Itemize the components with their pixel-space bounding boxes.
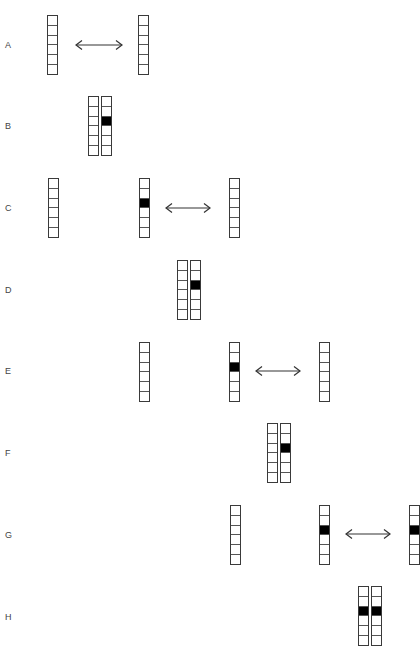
cell-strip (229, 178, 240, 238)
cell-strip (138, 15, 149, 75)
empty-cell (49, 218, 58, 228)
empty-cell (178, 261, 187, 271)
empty-cell (178, 281, 187, 291)
empty-cell (191, 271, 200, 281)
row-label: F (5, 448, 11, 458)
empty-cell (320, 535, 329, 545)
row-label: C (5, 203, 12, 213)
cell-strip (190, 260, 201, 320)
empty-cell (230, 392, 239, 401)
empty-cell (230, 179, 239, 189)
empty-cell (48, 65, 57, 74)
empty-cell (49, 228, 58, 237)
filled-cell (410, 526, 419, 536)
empty-cell (320, 343, 329, 353)
empty-cell (410, 535, 419, 545)
double-arrow-icon (255, 365, 301, 377)
cell-strip (319, 342, 330, 402)
empty-cell (140, 372, 149, 382)
cell-strip (229, 342, 240, 402)
empty-cell (230, 382, 239, 392)
empty-cell (231, 506, 240, 516)
empty-cell (359, 587, 368, 597)
row-label: D (5, 285, 12, 295)
empty-cell (48, 45, 57, 55)
row-label: A (5, 40, 11, 50)
empty-cell (281, 434, 290, 444)
empty-cell (281, 473, 290, 482)
filled-cell (281, 444, 290, 454)
empty-cell (230, 372, 239, 382)
cell-strip (139, 178, 150, 238)
empty-cell (48, 26, 57, 36)
empty-cell (140, 353, 149, 363)
filled-cell (372, 607, 381, 617)
cell-strip (280, 423, 291, 483)
empty-cell (268, 473, 277, 482)
filled-cell (230, 363, 239, 373)
empty-cell (139, 45, 148, 55)
empty-cell (191, 290, 200, 300)
cell-strip (47, 15, 58, 75)
row-label: E (5, 366, 11, 376)
empty-cell (320, 363, 329, 373)
empty-cell (178, 271, 187, 281)
empty-cell (102, 107, 111, 117)
empty-cell (230, 343, 239, 353)
empty-cell (320, 382, 329, 392)
empty-cell (89, 126, 98, 136)
empty-cell (230, 199, 239, 209)
empty-cell (268, 424, 277, 434)
cell-strip (139, 342, 150, 402)
empty-cell (268, 453, 277, 463)
cell-strip (371, 586, 382, 646)
empty-cell (410, 516, 419, 526)
empty-cell (140, 189, 149, 199)
empty-cell (140, 392, 149, 401)
empty-cell (140, 382, 149, 392)
double-arrow-icon (75, 39, 123, 51)
empty-cell (410, 506, 419, 516)
empty-cell (102, 136, 111, 146)
empty-cell (48, 36, 57, 46)
empty-cell (372, 597, 381, 607)
empty-cell (140, 218, 149, 228)
cell-strip (319, 505, 330, 565)
empty-cell (281, 463, 290, 473)
empty-cell (139, 36, 148, 46)
empty-cell (231, 516, 240, 526)
empty-cell (49, 179, 58, 189)
empty-cell (320, 545, 329, 555)
empty-cell (230, 218, 239, 228)
empty-cell (191, 300, 200, 310)
cell-strip (88, 96, 99, 156)
empty-cell (410, 545, 419, 555)
empty-cell (281, 424, 290, 434)
double-arrow-icon (165, 202, 211, 214)
empty-cell (89, 136, 98, 146)
empty-cell (230, 208, 239, 218)
empty-cell (89, 97, 98, 107)
empty-cell (191, 310, 200, 319)
cell-strip (101, 96, 112, 156)
row-label: G (5, 530, 12, 540)
filled-cell (102, 117, 111, 127)
empty-cell (320, 372, 329, 382)
filled-cell (140, 199, 149, 209)
empty-cell (89, 146, 98, 155)
empty-cell (140, 343, 149, 353)
empty-cell (230, 353, 239, 363)
empty-cell (178, 300, 187, 310)
empty-cell (102, 146, 111, 155)
empty-cell (230, 189, 239, 199)
empty-cell (410, 555, 419, 564)
empty-cell (139, 65, 148, 74)
empty-cell (49, 189, 58, 199)
empty-cell (231, 545, 240, 555)
empty-cell (140, 179, 149, 189)
cell-strip (230, 505, 241, 565)
row-label: H (5, 612, 12, 622)
empty-cell (139, 26, 148, 36)
cell-strip (177, 260, 188, 320)
filled-cell (191, 281, 200, 291)
